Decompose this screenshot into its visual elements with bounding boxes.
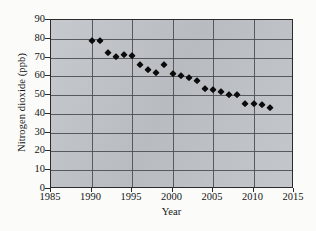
gridline-horizontal <box>51 170 292 171</box>
y-axis-tick-mark <box>45 94 50 95</box>
gridline-horizontal <box>51 95 292 96</box>
x-axis-tick-mark <box>172 188 173 192</box>
gridline-vertical <box>132 20 133 187</box>
data-point <box>152 69 160 77</box>
gridline-horizontal <box>51 151 292 152</box>
y-axis-tick-mark <box>45 150 50 151</box>
data-point <box>112 53 120 61</box>
data-point <box>161 61 169 69</box>
data-point <box>201 86 209 94</box>
gridline-vertical <box>173 20 174 187</box>
x-axis-tick-mark <box>131 188 132 192</box>
data-point <box>242 100 250 108</box>
x-axis-tick-mark <box>293 188 294 192</box>
data-point <box>144 66 152 74</box>
y-axis-tick-mark <box>45 113 50 114</box>
y-axis-tick-label: 40 <box>14 108 45 118</box>
y-axis-tick-label: 30 <box>14 127 45 137</box>
y-axis-tick-label: 80 <box>14 33 45 43</box>
data-point <box>250 100 258 108</box>
y-axis-tick-label: 90 <box>14 14 45 24</box>
y-axis-tick-label: 20 <box>14 145 45 155</box>
gridline-vertical <box>213 20 214 187</box>
gridline-horizontal <box>51 58 292 59</box>
data-point <box>136 61 144 69</box>
y-axis-tick-label: 70 <box>14 52 45 62</box>
y-axis-tick-label: 10 <box>14 164 45 174</box>
x-axis-tick-mark <box>91 188 92 192</box>
y-axis-tick-label: 50 <box>14 89 45 99</box>
y-axis-tick-labels: 0102030405060708090 <box>14 19 45 188</box>
data-point <box>177 73 185 81</box>
gridline-horizontal <box>51 133 292 134</box>
y-axis-tick-mark <box>45 169 50 170</box>
y-axis-tick-mark <box>45 132 50 133</box>
gridline-horizontal <box>51 39 292 40</box>
x-axis-tick-mark <box>50 188 51 192</box>
data-point <box>225 91 233 99</box>
x-axis-tick-labels: 1985199019952000200520102015 <box>50 190 293 206</box>
y-axis-tick-mark <box>45 57 50 58</box>
chart-figure: Nitrogen dioxide (ppb) 01020304050607080… <box>0 0 316 231</box>
data-point <box>266 104 274 112</box>
y-axis-tick-mark <box>45 19 50 20</box>
x-axis-tick-mark <box>212 188 213 192</box>
data-point <box>104 49 112 57</box>
data-point <box>193 77 201 85</box>
data-point <box>233 91 241 99</box>
gridline-horizontal <box>51 114 292 115</box>
plot-area <box>50 19 293 188</box>
x-axis-title: Year <box>50 206 293 217</box>
data-point <box>258 102 266 110</box>
y-axis-tick-mark <box>45 75 50 76</box>
gridline-vertical <box>92 20 93 187</box>
x-axis-tick-mark <box>253 188 254 192</box>
y-axis-tick-label: 60 <box>14 70 45 80</box>
y-axis-tick-mark <box>45 38 50 39</box>
data-point <box>209 87 217 95</box>
